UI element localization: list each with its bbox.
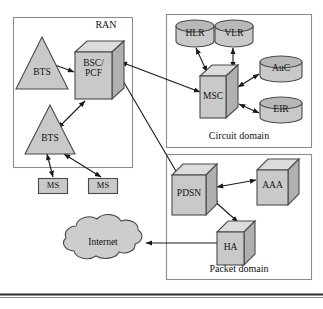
node-eir [260, 97, 302, 123]
node-pdsn [172, 164, 217, 215]
node-bsc-pcf [75, 41, 124, 99]
node-bts-lower [25, 105, 75, 154]
node-aaa [257, 159, 299, 205]
node-ha [217, 221, 255, 265]
connector-pdsn-aaa [217, 180, 256, 187]
connector-bts-ms-right [64, 154, 101, 177]
connector-msc-hlr [196, 48, 207, 72]
connector-bsc-pdsn [119, 74, 180, 178]
node-bts-upper [16, 37, 68, 89]
connector-msc-eir [239, 104, 259, 113]
node-hlr [176, 20, 214, 47]
connector-msc-auc [238, 74, 259, 87]
node-internet [64, 215, 142, 259]
node-ms-right [89, 179, 118, 194]
node-ms-left [39, 179, 68, 194]
node-vlr [215, 20, 253, 47]
node-msc [200, 65, 238, 118]
diagram-canvas [0, 0, 323, 309]
node-auc [260, 56, 302, 82]
network-architecture-figure: RAN Circuit domain Packet domain BTS BTS… [0, 0, 323, 309]
connector-bts-ms-left [47, 154, 53, 177]
connector-bsc-bts-lower [58, 101, 85, 128]
